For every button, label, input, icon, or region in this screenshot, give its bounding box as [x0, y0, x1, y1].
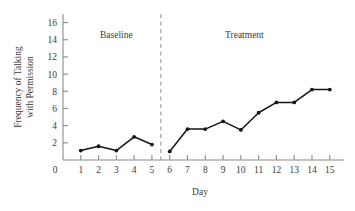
data-point-day-8 [203, 127, 207, 131]
data-point-day-13 [292, 101, 296, 105]
phase-label-baseline: Baseline [100, 30, 133, 40]
x-axis-tick-labels: 123456789101112131415 [78, 165, 334, 175]
x-tick-label-12: 12 [272, 165, 282, 175]
x-tick-label-3: 3 [114, 165, 119, 175]
chart-canvas: 246810121416 123456789101112131415 0 Bas… [0, 0, 355, 211]
data-line-baseline [81, 137, 152, 151]
data-point-day-1 [79, 149, 83, 153]
data-line-treatment [170, 90, 330, 152]
y-tick-label-12: 12 [48, 52, 58, 62]
x-tick-label-4: 4 [132, 165, 137, 175]
x-tick-label-5: 5 [150, 165, 155, 175]
y-axis-title: Frequency of Talking with Permission [13, 46, 35, 128]
data-point-day-7 [186, 127, 190, 131]
x-tick-label-13: 13 [289, 165, 299, 175]
data-point-day-14 [310, 88, 314, 92]
data-point-day-5 [150, 143, 154, 147]
y-tick-label-6: 6 [52, 104, 57, 114]
x-tick-label-14: 14 [307, 165, 317, 175]
x-tick-label-15: 15 [325, 165, 335, 175]
x-axis-ticks [81, 155, 330, 160]
data-markers [79, 88, 332, 154]
y-axis-ticks [63, 23, 68, 143]
y-tick-label-10: 10 [48, 70, 58, 80]
x-tick-label-2: 2 [96, 165, 101, 175]
data-point-day-10 [239, 128, 243, 132]
data-point-day-12 [275, 101, 279, 105]
data-point-day-2 [97, 144, 101, 148]
x-tick-label-10: 10 [236, 165, 246, 175]
y-tick-label-8: 8 [52, 87, 57, 97]
data-point-day-9 [221, 119, 225, 123]
data-point-day-11 [257, 111, 261, 115]
data-point-day-15 [328, 88, 332, 92]
y-tick-label-2: 2 [52, 138, 57, 148]
origin-tick-label: 0 [53, 165, 58, 175]
y-axis-title-line2: with Permission [25, 56, 35, 118]
x-tick-label-11: 11 [254, 165, 263, 175]
data-point-day-6 [168, 150, 172, 154]
x-axis-title: Day [192, 187, 208, 197]
phase-label-treatment: Treatment [225, 30, 264, 40]
y-tick-label-14: 14 [48, 35, 58, 45]
y-tick-label-16: 16 [48, 18, 58, 28]
y-tick-label-4: 4 [52, 121, 57, 131]
x-tick-label-6: 6 [167, 165, 172, 175]
x-tick-label-8: 8 [203, 165, 208, 175]
x-tick-label-1: 1 [78, 165, 83, 175]
x-tick-label-7: 7 [185, 165, 190, 175]
y-axis-tick-labels: 246810121416 [48, 18, 58, 148]
data-point-day-4 [132, 135, 136, 139]
data-point-day-3 [114, 149, 118, 153]
chart-figure: 246810121416 123456789101112131415 0 Bas… [0, 0, 355, 211]
x-tick-label-9: 9 [221, 165, 226, 175]
y-axis-title-line1: Frequency of Talking [13, 46, 23, 128]
